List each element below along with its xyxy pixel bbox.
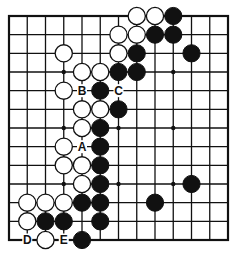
black-stone (128, 63, 145, 80)
svg-text:E: E (60, 233, 68, 247)
black-stone (92, 157, 109, 174)
svg-text:A: A (78, 140, 87, 154)
point-label-c: C (114, 84, 124, 98)
star-point (62, 182, 66, 186)
star-point (62, 70, 66, 74)
white-stone (55, 157, 72, 174)
white-stone (73, 175, 90, 192)
black-stone (92, 138, 109, 155)
black-stone (183, 45, 200, 62)
star-point (116, 182, 120, 186)
go-board: ABCDE (0, 0, 238, 256)
white-stone (110, 45, 127, 62)
black-stone (183, 175, 200, 192)
white-stone (19, 194, 36, 211)
go-board-diagram: ABCDE (0, 0, 238, 256)
white-stone (19, 213, 36, 230)
white-stone (37, 194, 54, 211)
white-stone (73, 101, 90, 118)
star-point (171, 126, 175, 130)
point-label-b: B (77, 84, 87, 98)
point-label-a: A (77, 140, 87, 154)
svg-text:C: C (114, 84, 123, 98)
star-point (62, 126, 66, 130)
white-stone (128, 7, 145, 24)
black-stone (110, 101, 127, 118)
star-point (171, 182, 175, 186)
black-stone (146, 26, 163, 43)
star-point (116, 126, 120, 130)
black-stone (55, 213, 72, 230)
white-stone (55, 194, 72, 211)
white-stone (110, 26, 127, 43)
white-stone (92, 63, 109, 80)
black-stone (73, 194, 90, 211)
white-stone (55, 82, 72, 99)
white-stone (55, 45, 72, 62)
svg-text:B: B (78, 84, 87, 98)
black-stone (92, 119, 109, 136)
black-stone (146, 194, 163, 211)
black-stone (110, 63, 127, 80)
point-label-d: D (22, 233, 32, 247)
white-stone (55, 138, 72, 155)
black-stone (73, 231, 90, 248)
white-stone (92, 101, 109, 118)
white-stone (37, 231, 54, 248)
point-label-e: E (59, 233, 69, 247)
white-stone (128, 26, 145, 43)
white-stone (73, 63, 90, 80)
black-stone (92, 194, 109, 211)
svg-text:D: D (23, 233, 32, 247)
white-stone (146, 7, 163, 24)
black-stone (37, 213, 54, 230)
black-stone (92, 82, 109, 99)
white-stone (73, 119, 90, 136)
black-stone (165, 7, 182, 24)
black-stone (92, 175, 109, 192)
black-stone (128, 45, 145, 62)
white-stone (73, 157, 90, 174)
star-point (171, 70, 175, 74)
black-stone (165, 26, 182, 43)
black-stone (92, 213, 109, 230)
